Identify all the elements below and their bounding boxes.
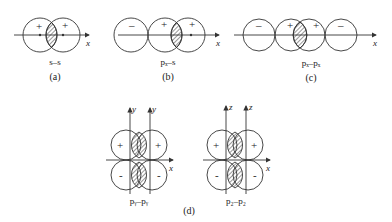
overlap-region-top bbox=[131, 132, 146, 158]
nucleus bbox=[190, 34, 192, 36]
panel-label: (d) bbox=[183, 205, 195, 217]
diagram-canvas: + + x s–s (a) – + + x pₓ–s (b) – + + – x… bbox=[0, 0, 392, 222]
overlap-region-top bbox=[227, 132, 242, 158]
sign: + bbox=[161, 18, 167, 30]
axis-label: x bbox=[85, 38, 90, 48]
sign: + bbox=[313, 19, 319, 31]
panel-label: (c) bbox=[305, 72, 316, 84]
axis-label: x bbox=[168, 163, 173, 173]
sign: + bbox=[117, 139, 123, 151]
panel-b: – + + x pₓ–s (b) bbox=[114, 18, 220, 83]
sign: – bbox=[337, 19, 344, 31]
orbital-label: pₓ–pₓ bbox=[302, 58, 321, 68]
orbital-label: pₓ–s bbox=[160, 57, 176, 67]
axis-label: x bbox=[265, 163, 270, 173]
orbital-label: pᵧ–pᵧ bbox=[130, 196, 149, 207]
axis-label: x bbox=[372, 38, 377, 48]
sign: - bbox=[215, 169, 219, 181]
sign: + bbox=[36, 20, 42, 32]
axis-label: z bbox=[248, 102, 253, 112]
panel-c: – + + – x pₓ–pₓ (c) bbox=[234, 19, 377, 84]
axis-label: y bbox=[151, 104, 156, 114]
panel-d-py: y y x + + - - pᵧ–pᵧ bbox=[106, 104, 173, 207]
sign: + bbox=[189, 18, 195, 30]
sign: – bbox=[255, 19, 262, 31]
panel-label: (a) bbox=[49, 71, 60, 83]
sign: - bbox=[253, 169, 257, 181]
sign: – bbox=[128, 19, 135, 31]
nucleus bbox=[62, 34, 64, 36]
orbital-overlap-diagram: + + x s–s (a) – + + x pₓ–s (b) – + + – x… bbox=[0, 0, 392, 222]
panel-a: + + x s–s (a) bbox=[14, 18, 90, 83]
sign: + bbox=[287, 19, 293, 31]
axis-label: z bbox=[228, 102, 233, 112]
orbital-label: p₂–p₂ bbox=[226, 196, 246, 206]
panel-label: (b) bbox=[162, 71, 174, 83]
nucleus bbox=[39, 34, 41, 36]
sign: + bbox=[62, 19, 68, 31]
sign: - bbox=[119, 169, 123, 181]
panel-d-pz: z z x + + - - p₂–p₂ bbox=[203, 102, 270, 206]
sign: + bbox=[251, 139, 257, 151]
orbital-label: s–s bbox=[49, 57, 61, 67]
overlap-region-bottom bbox=[227, 162, 242, 188]
axis-label: x bbox=[215, 38, 220, 48]
sign: + bbox=[213, 139, 219, 151]
axis-label: y bbox=[131, 104, 136, 114]
sign: + bbox=[155, 139, 161, 151]
sign: - bbox=[157, 169, 161, 181]
overlap-region-bottom bbox=[131, 162, 146, 188]
